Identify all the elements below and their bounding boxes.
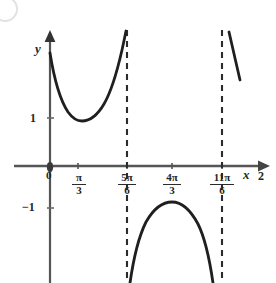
figure-container: y x 2 0 1 −1 π 3 5π 6 4π 3 11π 6 — [0, 0, 276, 283]
x-tick-denominator: 6 — [118, 185, 136, 197]
y-tick-label-1: 1 — [30, 112, 36, 124]
y-tick-label-minus-1: −1 — [22, 201, 35, 213]
x-tick-label-pi-over-3: π 3 — [72, 172, 86, 196]
x-tick-numerator: 4π — [163, 172, 181, 184]
x-tick-label-5pi-over-6: 5π 6 — [118, 172, 136, 196]
x-tick-denominator: 3 — [163, 185, 181, 197]
x-tick-label-4pi-over-3: 4π 3 — [163, 172, 181, 196]
graph-canvas — [0, 0, 276, 283]
curve-branch-lower-middle — [130, 202, 213, 283]
x-tick-denominator: 6 — [210, 185, 234, 197]
curve-branch-upper-left — [50, 31, 126, 121]
x-tick-numerator: 11π — [210, 172, 234, 184]
page-number: 2 — [258, 170, 264, 182]
x-tick-denominator: 3 — [72, 185, 86, 197]
x-tick-numerator: 5π — [118, 172, 136, 184]
x-tick-label-11pi-over-6: 11π 6 — [210, 172, 234, 196]
origin-label: 0 — [46, 170, 52, 181]
x-tick-numerator: π — [72, 172, 86, 184]
y-axis-label: y — [35, 42, 41, 55]
curve-branch-upper-right — [229, 32, 240, 80]
x-axis-label: x — [243, 168, 250, 181]
